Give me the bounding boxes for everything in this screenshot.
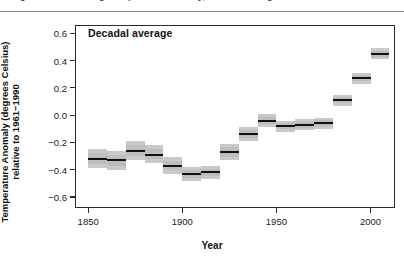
x-axis-title: Year: [10, 240, 404, 251]
decadal-mean-line: [295, 124, 314, 126]
y-axis-tick: [70, 142, 75, 143]
x-axis-tick-label: 1900: [172, 216, 193, 227]
decadal-mean-line: [258, 120, 277, 122]
x-axis-tick: [182, 208, 183, 213]
decadal-mean-line: [352, 77, 371, 79]
y-axis-tick: [70, 169, 75, 170]
decadal-mean-line: [333, 99, 352, 101]
decadal-mean-line: [371, 53, 390, 55]
decadal-mean-line: [220, 151, 239, 153]
x-axis-tick-label: 2000: [360, 216, 381, 227]
decadal-mean-line: [182, 173, 201, 175]
y-axis-tick-label: −0.2: [35, 137, 67, 148]
decadal-mean-line: [239, 133, 258, 135]
decadal-mean-line: [88, 158, 107, 160]
y-axis-tick-label: −0.4: [35, 164, 67, 175]
decadal-mean-line: [276, 125, 295, 127]
horizontal-rule: [0, 11, 404, 12]
decadal-mean-line: [107, 159, 126, 161]
y-axis-tick-label: 0.0: [35, 110, 67, 121]
x-axis-tick: [276, 208, 277, 213]
y-axis-title-line1: Temperature Anomaly (degrees Celsius): [0, 41, 10, 222]
y-axis-tick: [70, 33, 75, 34]
decadal-mean-line: [201, 171, 220, 173]
y-axis-tick-label: −0.6: [35, 192, 67, 203]
decadal-mean-line: [145, 154, 164, 156]
x-axis-tick: [88, 208, 89, 213]
x-axis-tick-label: 1850: [78, 216, 99, 227]
y-axis-tick-label: 0.6: [35, 28, 67, 39]
legend-decadal-average: Decadal average: [88, 27, 172, 39]
y-axis-tick: [70, 196, 75, 197]
decadal-mean-line: [126, 150, 145, 152]
y-axis-tick: [70, 60, 75, 61]
y-axis-tick: [70, 115, 75, 116]
x-axis-tick: [370, 208, 371, 213]
decadal-mean-line: [314, 122, 333, 124]
cut-off-caption: Figure: Global average temperature anoma…: [0, 0, 404, 11]
decadal-mean-line: [163, 165, 182, 167]
y-axis-tick-label: 0.4: [35, 55, 67, 66]
chart-figure: Figure: Global average temperature anoma…: [0, 0, 404, 264]
y-axis-title: Temperature Anomaly (degrees Celsius) re…: [0, 0, 22, 264]
plot-area: −0.6−0.4−0.20.00.20.40.61850190019502000: [75, 25, 395, 208]
y-axis-tick: [70, 87, 75, 88]
y-axis-tick-label: 0.2: [35, 82, 67, 93]
x-axis-tick-label: 1950: [266, 216, 287, 227]
y-axis-title-line2: relative to 1961−1990: [10, 41, 21, 222]
cut-off-caption-text: Figure: Global average temperature anoma…: [12, 0, 282, 1]
